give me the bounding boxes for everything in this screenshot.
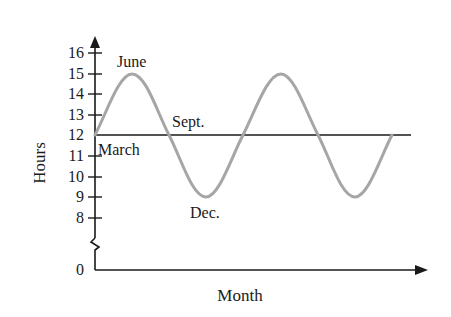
tick-label-15: 15 (68, 65, 84, 82)
annotation-sept: Sept. (172, 113, 204, 131)
x-axis-title: Month (217, 286, 263, 305)
y-axis-break (91, 238, 99, 270)
annotation-dec: Dec. (190, 204, 220, 221)
tick-label-12: 12 (68, 126, 84, 143)
y-axis-title: Hours (30, 142, 49, 184)
tick-label-14: 14 (68, 85, 84, 102)
y-tick-labels: 16 15 14 13 12 11 10 9 8 0 (68, 44, 84, 278)
annotation-june: June (117, 53, 146, 70)
y-axis-arrow-icon (90, 36, 100, 48)
tick-label-11: 11 (69, 147, 84, 164)
tick-label-10: 10 (68, 168, 84, 185)
tick-label-8: 8 (76, 209, 84, 226)
tick-label-16: 16 (68, 44, 84, 61)
tick-label-9: 9 (76, 188, 84, 205)
tick-label-0: 0 (76, 261, 84, 278)
annotation-march: March (98, 141, 140, 158)
chart-canvas: 16 15 14 13 12 11 10 9 8 0 June Sept. Ma… (0, 0, 451, 317)
tick-label-13: 13 (68, 106, 84, 123)
x-axis-arrow-icon (415, 265, 428, 275)
